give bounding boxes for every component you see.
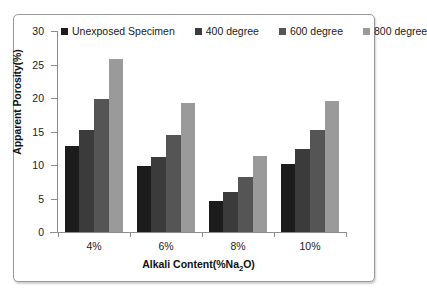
bar [223, 192, 238, 232]
y-tick-label: 30 [4, 26, 44, 37]
bar [79, 130, 94, 232]
x-tick-label: 10% [280, 241, 340, 252]
bar [209, 201, 224, 232]
y-tick-label: 25 [4, 60, 44, 71]
bar [65, 146, 80, 232]
bar [151, 157, 166, 232]
y-axis-title: Apparent Porosity(%) [11, 0, 23, 207]
x-tick-mark [202, 232, 203, 237]
bar [137, 166, 152, 232]
x-tick-mark [274, 232, 275, 237]
bar [166, 135, 181, 232]
bar [109, 59, 124, 232]
legend-label: 800 degree [374, 26, 427, 37]
bar [281, 164, 296, 232]
x-tick-mark [130, 232, 131, 237]
x-axis-line [50, 232, 347, 233]
bar [94, 99, 109, 232]
x-tick-mark [58, 232, 59, 237]
x-tick-mark [346, 232, 347, 237]
legend-swatch-icon [363, 28, 370, 35]
plot-area [58, 31, 346, 232]
y-tick-label: 10 [4, 160, 44, 171]
bar [238, 177, 253, 232]
bar [181, 103, 196, 232]
y-tick-label: 20 [4, 93, 44, 104]
y-tick-label: 5 [4, 194, 44, 205]
y-tick-label: 15 [4, 127, 44, 138]
x-axis-title: Alkali Content(%Na2O) [50, 258, 347, 273]
y-tick-label: 0 [4, 227, 44, 238]
bar [253, 156, 268, 232]
bar [295, 149, 310, 232]
bar [325, 101, 340, 232]
x-tick-label: 6% [136, 241, 196, 252]
x-tick-label: 8% [208, 241, 268, 252]
legend-item[interactable]: 800 degree [363, 26, 427, 37]
x-tick-label: 4% [64, 241, 124, 252]
bar [310, 130, 325, 233]
